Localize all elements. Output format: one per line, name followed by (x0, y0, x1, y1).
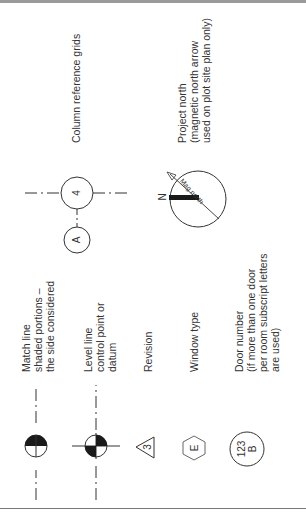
window-type-hexagon-icon: E (183, 436, 205, 460)
svg-text:control point or: control point or (94, 302, 106, 372)
svg-text:Revision: Revision (142, 332, 154, 372)
level-line-symbol (72, 385, 120, 500)
svg-text:B: B (247, 445, 258, 452)
svg-text:N: N (157, 193, 168, 200)
match-line-symbol (25, 385, 47, 500)
svg-text:Window type: Window type (188, 312, 200, 372)
column-grid-label: Column reference grids (70, 34, 82, 143)
svg-text:datum: datum (106, 343, 118, 372)
svg-text:the side considered: the side considered (44, 281, 56, 372)
north-arrow-icon: N Mag north (157, 171, 226, 227)
revision-label: Revision (142, 332, 154, 372)
svg-text:per room subscript letters: per room subscript letters (257, 254, 269, 372)
symbol-legend: Match line shaded portions – the side co… (0, 0, 306, 514)
svg-text:Match line: Match line (20, 324, 32, 372)
svg-text:(if more than one door: (if more than one door (245, 268, 257, 372)
svg-text:shaded portions –: shaded portions – (32, 288, 44, 372)
svg-text:are used): are used) (269, 328, 281, 372)
door-number-label: Door number (if more than one door per r… (233, 254, 281, 372)
door-number-circle-icon: 123 B (230, 432, 264, 466)
project-north-label: Project north (magnetic north arrow used… (176, 18, 212, 143)
window-type-label: Window type (188, 312, 200, 372)
svg-text:used on plot site plan only): used on plot site plan only) (200, 18, 212, 143)
grid-bubble-4: 4 (71, 190, 82, 196)
match-line-label: Match line shaded portions – the side co… (20, 281, 56, 372)
svg-text:3: 3 (142, 444, 153, 450)
revision-triangle-icon: 3 (136, 437, 154, 458)
svg-text:Column reference grids: Column reference grids (70, 34, 82, 143)
level-line-label: Level line control point or datum (82, 302, 118, 372)
svg-text:Mag north: Mag north (178, 177, 205, 206)
svg-text:(magnetic north arrow: (magnetic north arrow (188, 40, 200, 143)
svg-text:Door number: Door number (233, 310, 245, 372)
svg-text:123: 123 (236, 440, 247, 457)
grid-bubble-a: A (71, 236, 82, 243)
svg-text:Level line: Level line (82, 327, 94, 372)
svg-text:Project north: Project north (176, 83, 188, 143)
svg-text:E: E (189, 444, 200, 451)
